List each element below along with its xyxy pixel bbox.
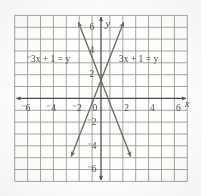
y-tick-6: 6 (90, 22, 95, 32)
x-axis-label: x (184, 98, 190, 109)
y-tick-2: 2 (90, 69, 95, 79)
coordinate-graph-figure: ⁻6 ⁻4 ⁻2 0 2 4 6 6 4 2 ⁻2 ⁻4 ⁻6 y x ⁻3x … (0, 0, 201, 196)
x-tick-4: 4 (150, 103, 155, 113)
y-axis-label: y (105, 18, 111, 29)
x-tick--6: ⁻6 (21, 103, 31, 113)
equation-label-right: 3x + 1 = y (119, 54, 158, 64)
y-tick--2: ⁻2 (87, 117, 97, 127)
x-tick-6: 6 (176, 103, 181, 113)
equation-label-left: ⁻3x + 1 = y (26, 54, 70, 64)
y-tick--6: ⁻6 (87, 164, 97, 174)
y-tick-4: 4 (90, 45, 95, 55)
x-tick-2: 2 (124, 103, 129, 113)
y-tick--4: ⁻4 (87, 141, 97, 151)
x-tick--4: ⁻4 (46, 103, 56, 113)
x-tick-0: 0 (93, 103, 98, 113)
graph-canvas: ⁻6 ⁻4 ⁻2 0 2 4 6 6 4 2 ⁻2 ⁻4 ⁻6 y x ⁻3x … (0, 0, 201, 196)
x-tick--2: ⁻2 (72, 103, 82, 113)
